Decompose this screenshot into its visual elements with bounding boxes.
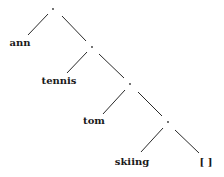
leaf-label: [ ] <box>200 156 213 168</box>
tree-edge-n3-l3 <box>103 90 125 114</box>
leaf-label: tennis <box>42 75 77 87</box>
tree-edge-n1-n2 <box>62 16 86 41</box>
cons-node-dot <box>91 46 93 48</box>
leaf-label: skiing <box>115 156 149 168</box>
tree-edge-n1-l1 <box>28 14 48 35</box>
leaf-label: tom <box>83 115 105 127</box>
leaf-label: ann <box>9 37 30 49</box>
tree-edge-n2-n3 <box>99 54 124 78</box>
tree-edges <box>0 0 224 177</box>
cons-node-dot <box>129 83 131 85</box>
tree-edge-n4-l5 <box>175 130 199 153</box>
tree-edge-n2-l2 <box>67 52 87 73</box>
cons-node-dot <box>52 8 54 10</box>
cons-node-dot <box>167 121 169 123</box>
tree-diagram: anntennistomskiing[ ] <box>0 0 224 177</box>
tree-edge-n3-n4 <box>138 92 162 116</box>
tree-edge-n4-l4 <box>141 128 163 152</box>
